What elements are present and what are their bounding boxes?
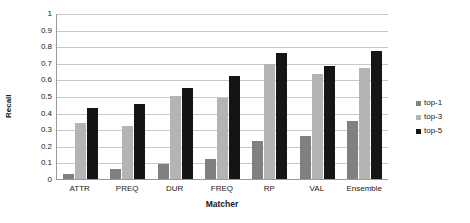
bar (229, 76, 240, 179)
bar (63, 174, 74, 179)
bar (300, 136, 311, 179)
bar (110, 169, 121, 179)
bar (87, 108, 98, 179)
legend-item: top-5 (416, 124, 468, 138)
bar (359, 68, 370, 179)
y-axis-tick-label: 0.1 (16, 159, 52, 167)
y-axis-label: Recall (2, 84, 16, 128)
bar (75, 123, 86, 179)
y-axis-tick-label: 0.8 (16, 43, 52, 51)
y-axis-ticks: 10.90.80.70.60.50.40.30.20.10 (16, 8, 56, 186)
x-axis-tick-label: PREQ (103, 183, 150, 197)
y-axis-tick-label: 0.2 (16, 143, 52, 151)
x-axis-tick-label: DUR (151, 183, 198, 197)
bar-group (341, 14, 388, 179)
y-axis-tick-label: 0.3 (16, 126, 52, 134)
legend-item: top-1 (416, 96, 468, 110)
legend-item-label: top-3 (424, 113, 442, 121)
bar (324, 66, 335, 179)
x-axis-label: Matcher (56, 198, 388, 210)
bar (182, 88, 193, 179)
y-axis-tick-label: 0.5 (16, 93, 52, 101)
bar-group (57, 14, 104, 179)
plot-area (56, 14, 388, 180)
y-axis-tick-label: 0.4 (16, 110, 52, 118)
x-axis-ticks: ATTRPREQDURFREQRPVALEnsemble (56, 183, 388, 197)
bar (170, 96, 181, 179)
y-axis-tick-label: 1 (16, 10, 52, 18)
legend-swatch-icon (416, 101, 421, 106)
bar (371, 51, 382, 179)
y-axis-tick-label: 0.7 (16, 60, 52, 68)
bar (217, 98, 228, 179)
legend-item-label: top-5 (424, 127, 442, 135)
bar (312, 74, 323, 179)
bar (158, 164, 169, 179)
x-axis-tick-label: Ensemble (341, 183, 388, 197)
bar (252, 141, 263, 179)
bar-group (293, 14, 340, 179)
bar (122, 126, 133, 179)
legend-swatch-icon (416, 115, 421, 120)
x-axis-tick-label: ATTR (56, 183, 103, 197)
bar (347, 121, 358, 179)
y-axis-tick-label: 0.9 (16, 27, 52, 35)
bar (134, 104, 145, 179)
bar-groups (57, 14, 388, 179)
x-axis-tick-label: FREQ (198, 183, 245, 197)
y-axis-tick-label: 0 (16, 176, 52, 184)
legend-item-label: top-1 (424, 99, 442, 107)
x-axis-tick-label: RP (246, 183, 293, 197)
legend-swatch-icon (416, 129, 421, 134)
bar-group (104, 14, 151, 179)
y-axis-tick-label: 0.6 (16, 76, 52, 84)
bar (205, 159, 216, 179)
bar-group (199, 14, 246, 179)
x-axis-tick-label: VAL (293, 183, 340, 197)
legend: top-1top-3top-5 (416, 96, 468, 138)
bar (264, 64, 275, 179)
bar-group (246, 14, 293, 179)
bar-chart: Recall 10.90.80.70.60.50.40.30.20.10 ATT… (0, 0, 470, 223)
bar (276, 53, 287, 179)
bar-group (152, 14, 199, 179)
legend-item: top-3 (416, 110, 468, 124)
